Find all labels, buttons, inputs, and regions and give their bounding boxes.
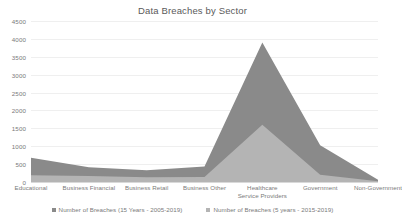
series-area-1 bbox=[31, 42, 378, 182]
x-axis-tick-line: Service Providers bbox=[238, 192, 287, 200]
legend-swatch-icon bbox=[52, 208, 56, 212]
x-axis-tick-label: HealthcareService Providers bbox=[238, 184, 287, 201]
x-axis-tick-line: Business Financial bbox=[63, 184, 116, 191]
legend-label: Number of Breaches (15 Years - 2005-2019… bbox=[59, 206, 183, 213]
y-axis-tick-label: 3500 bbox=[12, 53, 26, 60]
y-axis-tick-label: 1500 bbox=[12, 125, 26, 132]
chart-legend: Number of Breaches (15 Years - 2005-2019… bbox=[0, 206, 385, 213]
y-axis-tick-label: 4500 bbox=[12, 18, 26, 25]
x-axis-tick-label: Business Other bbox=[183, 184, 226, 192]
y-axis-tick-label: 3000 bbox=[12, 71, 26, 78]
y-axis-tick-label: 500 bbox=[15, 161, 26, 168]
y-axis-tick-label: 1000 bbox=[12, 143, 26, 150]
y-axis: 450040003500300025002000150010005000 bbox=[0, 21, 29, 182]
x-axis-tick-line: Non-Government bbox=[354, 184, 402, 191]
y-axis-tick-label: 4000 bbox=[12, 35, 26, 42]
x-axis-tick-line: Business Other bbox=[183, 184, 226, 191]
chart-title: Data Breaches by Sector bbox=[0, 5, 385, 16]
x-axis-tick-label: Business Retail bbox=[125, 184, 168, 192]
x-axis-tick-label: Government bbox=[303, 184, 338, 192]
x-axis-tick-line: Healthcare bbox=[247, 184, 277, 191]
gridline bbox=[31, 182, 378, 183]
legend-swatch-icon bbox=[206, 208, 210, 212]
x-axis: EducationalBusiness FinancialBusiness Re… bbox=[31, 184, 378, 206]
y-axis-tick-label: 2500 bbox=[12, 89, 26, 96]
x-axis-tick-label: Business Financial bbox=[63, 184, 116, 192]
x-axis-tick-line: Business Retail bbox=[125, 184, 168, 191]
x-axis-tick-label: Educational bbox=[15, 184, 48, 192]
plot-area bbox=[31, 21, 378, 182]
legend-label: Number of Breaches (5 years - 2015-2019) bbox=[213, 206, 333, 213]
y-axis-tick-label: 2000 bbox=[12, 107, 26, 114]
x-axis-tick-line: Government bbox=[303, 184, 338, 191]
x-axis-tick-line: Educational bbox=[15, 184, 48, 191]
legend-item-2[interactable]: Number of Breaches (5 years - 2015-2019) bbox=[206, 206, 333, 213]
legend-item-1[interactable]: Number of Breaches (15 Years - 2005-2019… bbox=[52, 206, 183, 213]
x-axis-tick-label: Non-Government bbox=[354, 184, 402, 192]
series-layer bbox=[31, 21, 378, 182]
